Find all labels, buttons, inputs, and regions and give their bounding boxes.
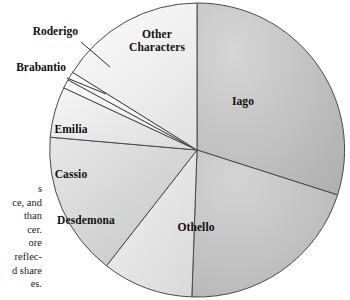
body-text-line: than — [0, 209, 42, 223]
pie-slices — [50, 3, 345, 297]
body-text-line: cer. — [0, 223, 42, 237]
body-text-line: d share — [0, 264, 42, 278]
othello-line-share-figure: Iago Othello Desdemona Cassio Emilia Oth… — [0, 0, 350, 300]
body-text-line: es. — [0, 277, 42, 291]
body-text-line: s — [0, 182, 42, 196]
body-text-line: ore — [0, 236, 42, 250]
pie-callout-label-brabantio: Brabantio — [0, 61, 66, 73]
pie-callout-label-roderigo: Roderigo — [0, 25, 78, 37]
pie-chart-canvas — [0, 0, 350, 300]
body-text-line: reflec- — [0, 250, 42, 264]
body-text-line: ce, and — [0, 196, 42, 210]
page-body-text-clipped: s ce, and than cer. ore reflec- d share … — [0, 182, 42, 291]
